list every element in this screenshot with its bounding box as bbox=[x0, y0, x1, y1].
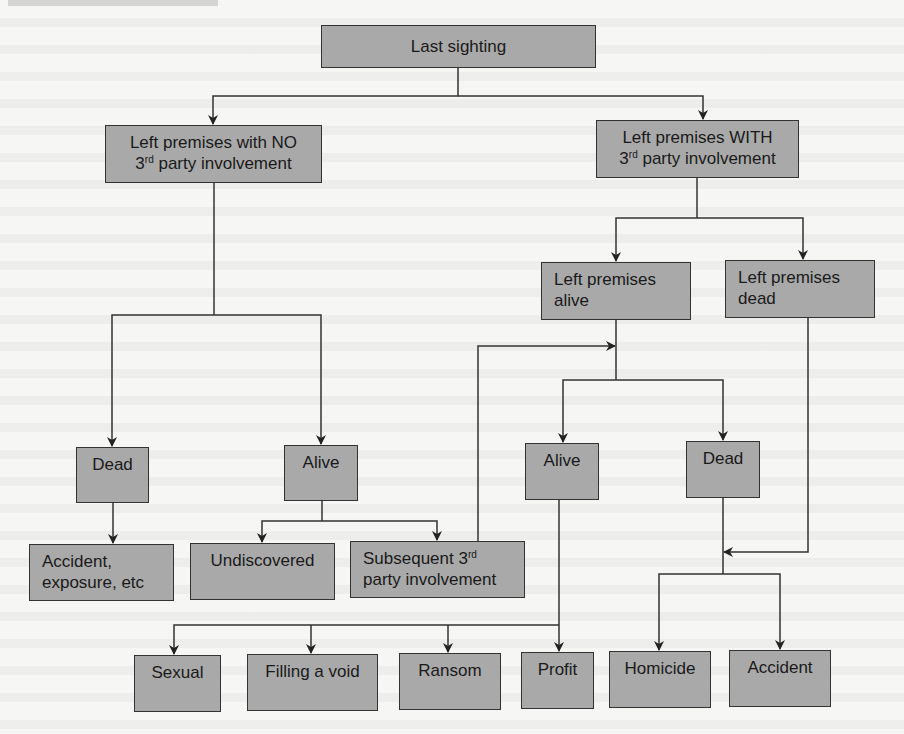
node-label: Sexual bbox=[152, 663, 204, 682]
node-label: Dead bbox=[92, 455, 133, 474]
edge-no3rd-to-dead bbox=[112, 315, 214, 446]
node-last-sighting: Last sighting bbox=[321, 25, 596, 68]
node-alive-right: Alive bbox=[525, 443, 599, 500]
node-dead-left: Dead bbox=[76, 447, 149, 503]
node-accident-exposure: Accident, exposure, etc bbox=[29, 544, 174, 601]
node-label-line1: Left premises bbox=[738, 267, 864, 288]
node-label-line2: alive bbox=[554, 290, 680, 311]
node-label-line1: Accident, bbox=[42, 551, 163, 572]
node-left-premises-with-3rd-party: Left premises WITH 3rd party involvement bbox=[596, 120, 799, 178]
node-label-line1: Subsequent 3rd bbox=[363, 548, 514, 569]
node-label-line2: 3rd party involvement bbox=[607, 148, 788, 169]
edge-deadright-to-homicide bbox=[659, 574, 723, 650]
node-sexual: Sexual bbox=[134, 655, 221, 712]
node-accident: Accident bbox=[729, 650, 831, 707]
node-undiscovered: Undiscovered bbox=[190, 543, 335, 600]
node-profit: Profit bbox=[521, 652, 594, 709]
node-label: Profit bbox=[538, 660, 578, 679]
node-homicide: Homicide bbox=[609, 651, 711, 708]
node-left-premises-alive: Left premises alive bbox=[541, 262, 691, 320]
edge-leftalive-to-aliveright bbox=[563, 380, 616, 442]
edge-with3rd-to-leftalive bbox=[616, 218, 697, 261]
node-left-premises-no-3rd-party: Left premises with NO 3rd party involvem… bbox=[105, 125, 322, 183]
node-label-line1: Left premises WITH bbox=[607, 127, 788, 148]
node-label: Homicide bbox=[625, 659, 696, 678]
node-label-line1: Left premises bbox=[554, 269, 680, 290]
edge-leftdead-down bbox=[724, 318, 808, 552]
node-label-line2: dead bbox=[738, 288, 864, 309]
edge-leftalive-to-deadright bbox=[616, 380, 723, 440]
node-label-line2: exposure, etc bbox=[42, 572, 163, 593]
node-ransom: Ransom bbox=[399, 653, 501, 710]
edge-with3rd-to-leftdead bbox=[697, 218, 803, 259]
node-label-line2: 3rd party involvement bbox=[116, 153, 311, 174]
node-label-line1: Left premises with NO bbox=[116, 132, 311, 153]
edge-motive-bus bbox=[174, 625, 559, 654]
edge-no3rd-to-alive bbox=[214, 315, 321, 444]
edge-last-to-no3rd bbox=[213, 68, 458, 124]
node-label: Alive bbox=[544, 451, 581, 470]
node-label: Dead bbox=[703, 449, 744, 468]
node-label: Ransom bbox=[418, 661, 481, 680]
node-label: Filling a void bbox=[265, 662, 360, 681]
node-label: Undiscovered bbox=[211, 551, 315, 570]
node-label: Alive bbox=[303, 453, 340, 472]
node-label: Last sighting bbox=[411, 37, 506, 56]
node-label: Accident bbox=[747, 658, 812, 677]
node-subsequent-3rd-party: Subsequent 3rd party involvement bbox=[350, 541, 525, 598]
edge-last-to-with3rd bbox=[458, 96, 703, 119]
node-label-line2: party involvement bbox=[363, 569, 514, 590]
edge-aliveleft-to-undiscovered bbox=[262, 521, 322, 542]
node-alive-left: Alive bbox=[284, 445, 358, 501]
flowchart-connectors bbox=[0, 0, 904, 734]
edge-aliveleft-to-subsequent bbox=[322, 521, 437, 540]
node-filling-a-void: Filling a void bbox=[247, 654, 378, 711]
edge-deadright-to-accident bbox=[723, 574, 780, 649]
node-left-premises-dead: Left premises dead bbox=[725, 260, 875, 318]
node-dead-right: Dead bbox=[686, 441, 760, 498]
